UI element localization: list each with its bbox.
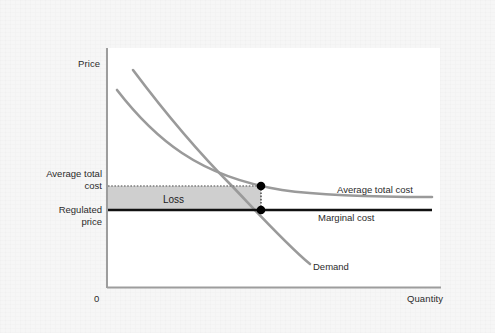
diagram-vector-layer	[0, 0, 495, 333]
marginal-cost-curve-label: Marginal cost	[318, 212, 375, 223]
regulated-price-point	[257, 206, 266, 215]
y-tick-average-total-cost-line1: Average total	[40, 168, 102, 180]
y-axis-label: Price	[78, 58, 100, 69]
y-tick-regulated-price: Regulated price	[40, 204, 102, 228]
demand-curve-label: Demand	[313, 261, 349, 272]
y-tick-average-total-cost: Average total cost	[40, 168, 102, 192]
economics-diagram-figure: Price Quantity 0 Average total cost Regu…	[0, 0, 495, 333]
average-total-cost-curve	[117, 90, 432, 197]
x-axis-label: Quantity	[407, 293, 443, 304]
y-tick-average-total-cost-line2: cost	[40, 180, 102, 192]
origin-label: 0	[94, 293, 99, 304]
loss-region	[108, 186, 261, 210]
y-tick-regulated-price-line1: Regulated	[40, 204, 102, 216]
y-tick-regulated-price-line2: price	[40, 216, 102, 228]
average-total-cost-curve-label: Average total cost	[337, 184, 413, 195]
loss-region-label: Loss	[163, 194, 184, 205]
average-total-cost-point	[257, 182, 266, 191]
demand-curve	[133, 70, 310, 264]
